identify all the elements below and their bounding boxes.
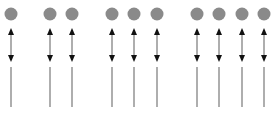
double-arrow-icon	[216, 28, 222, 62]
column	[66, 8, 79, 108]
circle-icon	[106, 8, 119, 21]
double-arrow-icon	[239, 28, 245, 62]
column	[44, 8, 57, 108]
double-arrow-icon	[131, 28, 137, 62]
double-arrow-icon	[154, 28, 160, 62]
column	[191, 8, 204, 108]
group-2	[44, 8, 79, 108]
circle-icon	[44, 8, 57, 21]
column	[106, 8, 119, 108]
column	[213, 8, 226, 108]
column	[151, 8, 164, 108]
circle-icon	[66, 8, 79, 21]
circle-icon	[128, 8, 141, 21]
group-1	[5, 8, 18, 108]
group-3	[106, 8, 164, 108]
double-arrow-icon	[69, 28, 75, 62]
circle-icon	[258, 8, 271, 21]
double-arrow-icon	[261, 28, 267, 62]
column	[236, 8, 249, 108]
double-arrow-icon	[109, 28, 115, 62]
group-4	[191, 8, 271, 108]
diagram-svg	[0, 0, 279, 113]
column	[5, 8, 18, 108]
diagram-canvas	[0, 0, 279, 113]
double-arrow-icon	[47, 28, 53, 62]
column	[128, 8, 141, 108]
circle-icon	[151, 8, 164, 21]
circle-icon	[213, 8, 226, 21]
column	[258, 8, 271, 108]
circle-icon	[236, 8, 249, 21]
circle-icon	[5, 8, 18, 21]
circle-icon	[191, 8, 204, 21]
double-arrow-icon	[194, 28, 200, 62]
double-arrow-icon	[8, 28, 14, 62]
